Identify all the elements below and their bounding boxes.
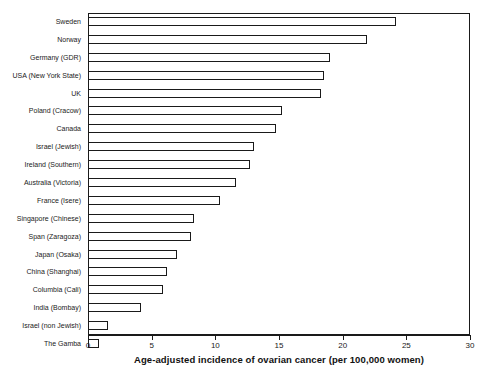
category-label-row: Japan (Osaka) (0, 246, 85, 264)
bar-row (88, 31, 470, 49)
category-label: France (Isere) (37, 197, 81, 205)
category-label: Sweden (56, 18, 81, 26)
category-label: China (Shanghai) (27, 268, 81, 276)
bar (88, 178, 236, 187)
x-tick (152, 335, 153, 340)
bar-row (88, 174, 470, 192)
bar-row (88, 49, 470, 67)
category-label: Norway (57, 36, 81, 44)
x-tick (279, 335, 280, 340)
bar (88, 106, 282, 115)
bar-row (88, 102, 470, 120)
category-label: Canada (56, 125, 81, 133)
bar-row (88, 299, 470, 317)
bar (88, 17, 396, 26)
category-label-row: India (Bombay) (0, 299, 85, 317)
bar (88, 89, 321, 98)
bar (88, 285, 163, 294)
bar (88, 267, 167, 276)
bar-row (88, 246, 470, 264)
x-tick-label: 5 (149, 341, 153, 350)
category-label-row: Columbia (Cali) (0, 281, 85, 299)
category-label-row: Israel (non Jewish) (0, 317, 85, 335)
x-tick (215, 335, 216, 340)
bar-row (88, 263, 470, 281)
bar-row (88, 156, 470, 174)
x-tick-label: 30 (466, 341, 475, 350)
bar (88, 71, 324, 80)
category-label: Japan (Osaka) (35, 251, 81, 259)
category-label-row: Germany (GDR) (0, 49, 85, 67)
x-axis-title: Age-adjusted incidence of ovarian cancer… (88, 354, 470, 365)
bar-row (88, 67, 470, 85)
category-label-row: Span (Zaragoza) (0, 228, 85, 246)
bar-row (88, 228, 470, 246)
bar (88, 35, 367, 44)
category-label-row: The Gamba (0, 335, 85, 353)
bars-container (88, 13, 470, 335)
category-label: Span (Zaragoza) (28, 233, 81, 241)
bar-row (88, 138, 470, 156)
category-label: Germany (GDR) (30, 54, 81, 62)
category-label: Columbia (Cali) (33, 286, 81, 294)
bar (88, 160, 250, 169)
bar (88, 303, 141, 312)
category-label: India (Bombay) (34, 304, 81, 312)
category-label-row: Norway (0, 31, 85, 49)
bar-row (88, 192, 470, 210)
x-tick-label: 10 (211, 341, 220, 350)
category-label-row: Ireland (Southern) (0, 156, 85, 174)
category-label-row: Sweden (0, 13, 85, 31)
category-label: Australia (Victoria) (24, 179, 81, 187)
bar-chart-figure: SwedenNorwayGermany (GDR)USA (New York S… (0, 0, 489, 376)
category-label: Ireland (Southern) (25, 161, 81, 169)
category-label: Singapore (Chinese) (17, 215, 81, 223)
x-tick (343, 335, 344, 340)
bar (88, 124, 276, 133)
bar (88, 321, 108, 330)
category-label: UK (71, 90, 81, 98)
x-tick-label: 15 (275, 341, 284, 350)
x-tick (406, 335, 407, 340)
category-label-row: USA (New York State) (0, 67, 85, 85)
category-label: Poland (Cracow) (29, 107, 81, 115)
bar-row (88, 317, 470, 335)
category-label-row: Canada (0, 120, 85, 138)
bar-row (88, 281, 470, 299)
category-label: USA (New York State) (13, 72, 81, 80)
x-tick-label: 20 (338, 341, 347, 350)
x-tick-label: 25 (402, 341, 411, 350)
x-tick (88, 335, 89, 340)
category-label-row: Israel (Jewish) (0, 138, 85, 156)
bar-row (88, 120, 470, 138)
bar (88, 142, 254, 151)
x-tick (470, 335, 471, 340)
category-label-row: Poland (Cracow) (0, 102, 85, 120)
bar (88, 196, 220, 205)
category-label-row: China (Shanghai) (0, 263, 85, 281)
bar (88, 232, 191, 241)
bar-row (88, 210, 470, 228)
bar (88, 250, 177, 259)
category-label: Israel (non Jewish) (22, 322, 81, 330)
category-label: Israel (Jewish) (36, 143, 81, 151)
category-axis-labels: SwedenNorwayGermany (GDR)USA (New York S… (0, 13, 85, 335)
category-label-row: Australia (Victoria) (0, 174, 85, 192)
x-tick-label: 0 (86, 341, 90, 350)
category-label-row: France (Isere) (0, 192, 85, 210)
bar-row (88, 85, 470, 103)
bar (88, 214, 194, 223)
category-label-row: UK (0, 85, 85, 103)
bar-row (88, 13, 470, 31)
bar (88, 53, 330, 62)
category-label: The Gamba (44, 340, 81, 348)
category-label-row: Singapore (Chinese) (0, 210, 85, 228)
